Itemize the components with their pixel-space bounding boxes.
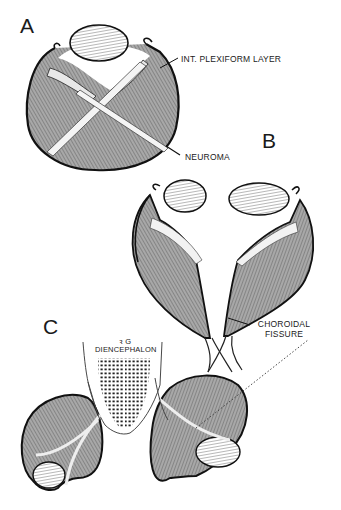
- panel-letter-c: C: [43, 315, 58, 339]
- label-int-plexiform-layer: INT. PLEXIFORM LAYER: [181, 54, 281, 64]
- label-diencephalon-group: ꝛ G DIENCEPHALON: [95, 338, 155, 354]
- label-neuroma: NEUROMA: [185, 152, 230, 162]
- label-fissure: FISSURE: [254, 329, 314, 339]
- panel-c-diencephalon-eyes: [22, 340, 308, 490]
- label-choroidal-fissure: CHOROIDAL FISSURE: [254, 319, 314, 339]
- diagram-canvas: [0, 0, 341, 510]
- panel-letter-a: A: [20, 14, 34, 38]
- panel-letter-b: B: [262, 129, 276, 153]
- label-diencephalon: DIENCEPHALON: [95, 346, 155, 354]
- panel-a-eye: [27, 25, 180, 170]
- label-choroidal: CHOROIDAL: [254, 319, 314, 329]
